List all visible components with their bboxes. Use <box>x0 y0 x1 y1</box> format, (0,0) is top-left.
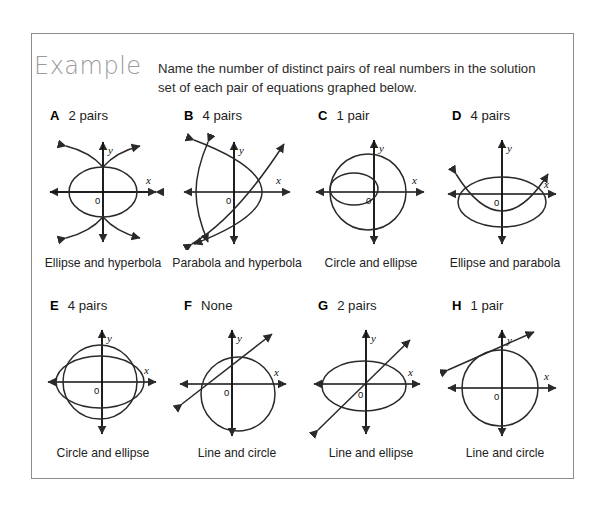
axis-label-y-a: y <box>107 144 113 156</box>
problem-cell-f: F None x y 0 Line and circle <box>170 298 304 460</box>
graph-g-line-and-ellipse: x y 0 <box>306 322 436 440</box>
axis-label-y-e: y <box>106 332 112 344</box>
problem-cell-g: G 2 pairs x y 0 Line and ellipse <box>304 298 438 460</box>
problem-letter-h: H <box>452 298 461 313</box>
problem-answer-f: None <box>201 298 233 313</box>
origin-label-c: 0 <box>366 195 371 206</box>
axis-label-y-h: y <box>506 334 512 346</box>
problem-cell-d: D 4 pairs x y 0 Ellipse and parabola <box>438 108 572 270</box>
problem-answer-g: 2 pairs <box>337 298 377 313</box>
problem-header-h: H 1 pair <box>452 298 503 318</box>
problem-letter-e: E <box>50 298 59 313</box>
graph-b-parabola-and-hyperbola: x y 0 <box>172 132 302 250</box>
origin-label-g: 0 <box>358 389 363 400</box>
problem-caption-b: Parabola and hyperbola <box>172 256 301 270</box>
origin-label-e: 0 <box>94 385 99 396</box>
problem-answer-a: 2 pairs <box>68 108 108 123</box>
problem-header-f: F None <box>184 298 232 318</box>
problem-answer-d: 4 pairs <box>470 108 510 123</box>
graph-f-line-and-circle: x y 0 <box>172 322 302 440</box>
problem-caption-g: Line and ellipse <box>329 446 414 460</box>
graph-d-ellipse-and-parabola: x y 0 <box>440 132 570 250</box>
axis-label-x-h: x <box>543 370 549 382</box>
instruction-text: Name the number of distinct pairs of rea… <box>158 59 556 97</box>
problem-letter-a: A <box>50 108 59 123</box>
problem-letter-g: G <box>318 298 328 313</box>
problem-header-g: G 2 pairs <box>318 298 377 318</box>
problem-answer-c: 1 pair <box>336 108 369 123</box>
problem-cell-h: H 1 pair x y 0 Line and circle <box>438 298 572 460</box>
problem-letter-f: F <box>184 298 192 313</box>
problem-letter-c: C <box>318 108 327 123</box>
axis-label-x-f: x <box>273 366 279 378</box>
origin-label-a: 0 <box>95 195 100 206</box>
problem-cell-c: C 1 pair x y 0 Circle and ellipse <box>304 108 438 270</box>
problem-caption-h: Line and circle <box>466 446 545 460</box>
origin-label-h: 0 <box>494 391 499 402</box>
problem-header-e: E 4 pairs <box>50 298 107 318</box>
problem-header-a: A 2 pairs <box>50 108 108 128</box>
axis-label-x-a: x <box>145 174 151 186</box>
problem-row-1: A 2 pairs x y 0 Ellipse and hyperbola <box>36 108 572 270</box>
axis-label-y-c: y <box>378 142 384 154</box>
problem-letter-b: B <box>184 108 193 123</box>
problem-letter-d: D <box>452 108 461 123</box>
problem-caption-c: Circle and ellipse <box>325 256 418 270</box>
axis-label-y-f: y <box>236 332 242 344</box>
problem-header-d: D 4 pairs <box>452 108 510 128</box>
origin-label-b: 0 <box>226 195 231 206</box>
axis-label-x-c: x <box>411 174 417 186</box>
problem-header-c: C 1 pair <box>318 108 369 128</box>
problem-caption-f: Line and circle <box>198 446 277 460</box>
graph-h-line-and-circle: x y 0 <box>440 322 570 440</box>
origin-label-d: 0 <box>494 197 499 208</box>
origin-label-f: 0 <box>224 387 229 398</box>
problem-cell-b: B 4 pairs x y 0 Parabola and hyperbola <box>170 108 304 270</box>
axis-label-y-g: y <box>370 332 376 344</box>
axis-label-x-g: x <box>407 366 413 378</box>
axis-label-x-b: x <box>275 174 281 186</box>
problem-caption-e: Circle and ellipse <box>57 446 150 460</box>
problem-cell-e: E 4 pairs x y 0 Circle and ellipse <box>36 298 170 460</box>
graph-a-ellipse-and-hyperbola: x y 0 <box>38 132 168 250</box>
axis-label-x-d: x <box>543 178 549 190</box>
problem-header-b: B 4 pairs <box>184 108 242 128</box>
axis-label-y-b: y <box>238 144 244 156</box>
problem-answer-e: 4 pairs <box>68 298 108 313</box>
problem-row-2: E 4 pairs x y 0 Circle and ellipse F Non… <box>36 298 572 460</box>
page-title: Example <box>34 52 142 80</box>
problem-caption-a: Ellipse and hyperbola <box>45 256 162 270</box>
graph-e-circle-and-ellipse: x y 0 <box>38 322 168 440</box>
axis-label-x-e: x <box>143 364 149 376</box>
problem-cell-a: A 2 pairs x y 0 Ellipse and hyperbola <box>36 108 170 270</box>
problem-caption-d: Ellipse and parabola <box>450 256 560 270</box>
axis-label-y-d: y <box>506 142 512 154</box>
problem-answer-b: 4 pairs <box>202 108 242 123</box>
graph-c-circle-and-ellipse: x y 0 <box>306 132 436 250</box>
problem-answer-h: 1 pair <box>470 298 503 313</box>
